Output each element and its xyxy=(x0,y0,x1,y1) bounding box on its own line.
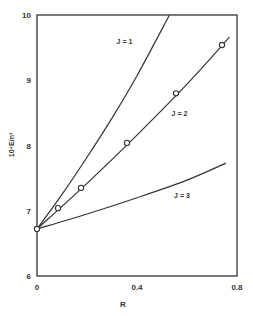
curve-label: J = 2 xyxy=(172,110,188,117)
series-line xyxy=(37,37,230,229)
x-axis-ticks: 00.40.8 xyxy=(35,283,243,292)
line-chart: 678910 00.40.8 J = 1J = 2J = 3 R 10⁴E/n³ xyxy=(0,0,253,316)
x-tick-label: 0 xyxy=(35,283,40,292)
y-tick-label: 6 xyxy=(27,272,32,281)
curve-label: J = 3 xyxy=(174,192,190,199)
open-circle-marker xyxy=(124,140,129,145)
open-circle-marker xyxy=(78,185,83,190)
open-circle-marker xyxy=(219,42,224,47)
open-circle-marker xyxy=(173,91,178,96)
y-tick-label: 10 xyxy=(22,11,31,20)
x-axis-label: R xyxy=(120,300,126,309)
data-markers xyxy=(34,42,224,231)
x-tick-label: 0.4 xyxy=(131,283,143,292)
series-group xyxy=(37,15,230,229)
y-tick-label: 7 xyxy=(27,207,32,216)
curve-label: J = 1 xyxy=(117,38,133,45)
y-axis-ticks: 678910 xyxy=(22,11,31,281)
open-circle-marker xyxy=(55,206,60,211)
y-tick-label: 8 xyxy=(27,142,32,151)
plot-frame xyxy=(37,15,237,276)
series-line xyxy=(37,163,226,229)
open-circle-marker xyxy=(34,226,39,231)
y-tick-label: 9 xyxy=(27,76,32,85)
y-axis-label: 10⁴E/n³ xyxy=(8,132,15,157)
x-tick-label: 0.8 xyxy=(231,283,243,292)
